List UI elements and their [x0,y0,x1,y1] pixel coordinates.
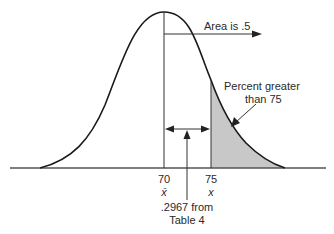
tick-sublabel-x: x [207,186,214,198]
percent-greater-label-2: than 75 [245,93,282,105]
tick-sublabel-mean: x̄ [160,186,167,198]
table-value-label-2: Table 4 [169,214,204,226]
table-value-label: .2967 from [161,201,214,213]
area-half-label: Area is .5 [204,20,250,32]
arrowhead-left-icon [165,126,174,133]
arrowhead-right-icon [252,31,262,38]
percent-pointer-arrow [236,104,256,122]
arrowhead-up-icon [184,130,191,139]
arrowhead-icon [231,117,240,127]
tick-label-75: 75 [205,173,217,185]
normal-distribution-diagram: Area is .5 Percent greater than 75 70 x̄… [0,0,334,234]
tick-label-70: 70 [158,173,170,185]
arrowhead-right-icon [201,126,210,133]
percent-greater-label: Percent greater [224,80,300,92]
